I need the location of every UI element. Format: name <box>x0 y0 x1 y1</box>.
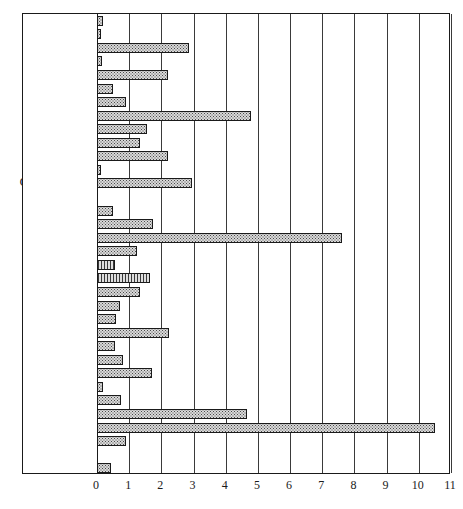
bar-romania <box>97 341 115 351</box>
bar-poland <box>97 328 169 338</box>
bar-row <box>23 14 449 28</box>
bar-spain <box>97 368 152 378</box>
gridline-11 <box>451 14 452 473</box>
bar-row <box>23 367 449 381</box>
bar-uk <box>97 395 121 405</box>
bar-austria <box>97 56 102 66</box>
bar-row <box>23 421 449 435</box>
bar-row <box>23 285 449 299</box>
bar-usa <box>97 409 247 419</box>
bar-italy <box>97 219 153 229</box>
bar-germany-west <box>97 178 192 188</box>
bar-bulgaria <box>97 97 126 107</box>
bar-japan <box>97 233 342 243</box>
bar-brazil <box>97 84 113 94</box>
bar-row <box>23 122 449 136</box>
bar-india <box>97 206 113 216</box>
bar-row <box>23 407 449 421</box>
bar-row <box>23 272 449 286</box>
x-axis-tick-label: 11 <box>444 478 456 492</box>
bar-finland <box>97 138 140 148</box>
x-axis-tick-label: 8 <box>350 478 356 492</box>
bar-yugoslavia <box>97 436 126 446</box>
bar-row <box>23 299 449 313</box>
bar-row <box>23 55 449 69</box>
bar-row <box>23 82 449 96</box>
x-axis-tick-label: 2 <box>157 478 163 492</box>
bar-germany-east <box>97 165 101 175</box>
bar-row <box>23 394 449 408</box>
bar-row <box>23 68 449 82</box>
bar-row <box>23 448 449 462</box>
bar-row <box>23 204 449 218</box>
x-axis-tick-label: 5 <box>254 478 260 492</box>
bar-korea-north <box>97 246 137 256</box>
bar-row <box>23 231 449 245</box>
bar-row <box>23 434 449 448</box>
bar-peru <box>97 314 116 324</box>
bar-row <box>23 95 449 109</box>
bar-row <box>23 136 449 150</box>
bar-norway <box>97 301 120 311</box>
bar-row <box>23 150 449 164</box>
bar-row <box>23 217 449 231</box>
bar-row <box>23 177 449 191</box>
bar-algeria <box>97 16 103 26</box>
bar-mexico <box>97 273 150 283</box>
bar-row <box>23 353 449 367</box>
x-axis-tick-label: 0 <box>93 478 99 492</box>
x-axis-tick-label: 10 <box>412 478 424 492</box>
bar-argentina <box>97 29 101 39</box>
bar-france <box>97 151 168 161</box>
bar-row <box>23 380 449 394</box>
bar-row <box>23 312 449 326</box>
x-axis-tick-label: 4 <box>222 478 228 492</box>
x-axis-tick-label: 6 <box>286 478 292 492</box>
bar-row <box>23 326 449 340</box>
x-axis-tick-label: 3 <box>190 478 196 492</box>
bar-row <box>23 461 449 475</box>
bar-row <box>23 41 449 55</box>
bar-chart: AlgeriaArgentinaAustraliaAustriaBelgiumB… <box>0 0 463 509</box>
bar-south-africa <box>97 355 123 365</box>
bar-turkey <box>97 382 103 392</box>
bar-belgium <box>97 70 168 80</box>
bar-korea-south <box>97 260 115 270</box>
bar-row <box>23 163 449 177</box>
bar-row <box>23 109 449 123</box>
bars-layer <box>23 14 449 473</box>
bar-china <box>97 124 147 134</box>
x-axis-tick-labels: 01234567891011 <box>0 478 463 500</box>
x-axis-tick-label: 7 <box>318 478 324 492</box>
x-axis-tick-label: 9 <box>383 478 389 492</box>
bar-row <box>23 190 449 204</box>
bar-row <box>23 258 449 272</box>
bar-row <box>23 28 449 42</box>
bar-ussr <box>97 423 435 433</box>
x-axis-tick-label: 1 <box>125 478 131 492</box>
bar-australia <box>97 43 189 53</box>
plot-area <box>22 13 450 474</box>
bar-zambia <box>97 463 111 473</box>
bar-canada <box>97 111 251 121</box>
bar-row <box>23 339 449 353</box>
bar-row <box>23 245 449 259</box>
bar-netherlands <box>97 287 140 297</box>
